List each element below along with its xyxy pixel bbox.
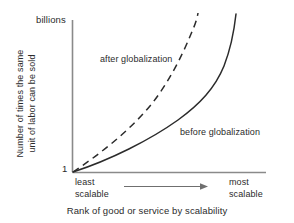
x-axis-left-tick-label-line2: scalable [75,189,109,199]
annotation-after-globalization: after globalization [100,54,172,65]
x-axis-right-tick-label-line1: most [229,177,249,187]
series-after-globalization-curve [73,13,198,172]
series-before-globalization-curve [73,14,236,172]
x-axis-left-tick-label: leastscalable [75,176,109,200]
y-axis-origin-tick-label: 1 [62,163,67,174]
x-axis-caption: Rank of good or service by scalability [0,205,294,216]
y-axis-title-line1: Number of times the same [15,50,25,158]
x-axis-left-tick-label-line1: least [75,177,95,187]
x-axis-right-tick-label-line2: scalable [229,189,263,199]
y-axis-top-tick-label: billions [36,14,66,25]
figure-container: billions 1 Number of times the sameunit … [0,0,294,223]
y-axis-title-line2: unit of labor can be sold [26,54,36,152]
y-axis-title: Number of times the sameunit of labor ca… [15,29,38,179]
scalability-direction-arrow [124,183,208,190]
annotation-before-globalization: before globalization [180,127,260,138]
x-axis-right-tick-label: mostscalable [229,176,263,200]
